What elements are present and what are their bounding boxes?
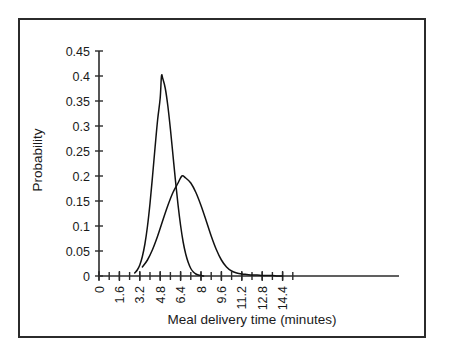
chart-frame <box>18 18 426 338</box>
